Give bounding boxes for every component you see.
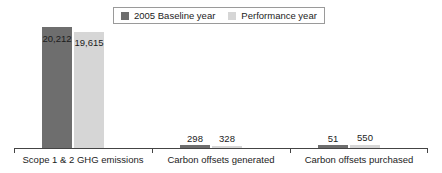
bar-group-offsets-generated: 298 328 [180, 28, 242, 148]
x-axis-tick-2 [290, 148, 291, 153]
bar-value-performance-2: 550 [357, 133, 373, 143]
bar-value-performance-1: 328 [219, 134, 235, 144]
bar-value-baseline-2: 51 [328, 134, 339, 144]
bar-group-offsets-purchased: 51 550 [318, 28, 380, 148]
category-label-scope-emissions: Scope 1 & 2 GHG emissions [14, 155, 152, 165]
bar-baseline-0 [42, 27, 72, 148]
plot-area: 20,212 19,615 298 328 51 [0, 0, 442, 148]
category-label-offsets-generated: Carbon offsets generated [152, 155, 290, 165]
x-axis-tick-1 [152, 148, 153, 153]
bar-group-scope-emissions: 20,212 19,615 [42, 28, 104, 148]
bar-value-baseline-1: 298 [187, 134, 203, 144]
bar-value-baseline-0: 20,212 [42, 34, 71, 44]
x-axis-tick-start [14, 148, 15, 153]
x-axis-tick-end [427, 148, 428, 153]
bar-value-performance-0: 19,615 [74, 38, 103, 48]
bar-performance-0 [74, 32, 104, 148]
grouped-bar-chart: 2005 Baseline year Performance year 20,2… [0, 0, 442, 173]
x-axis-line [14, 148, 428, 149]
category-label-offsets-purchased: Carbon offsets purchased [290, 155, 428, 165]
